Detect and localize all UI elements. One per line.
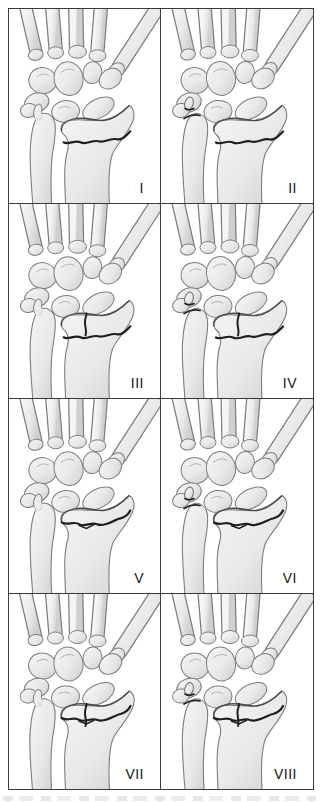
panel-type-4: IV [161,204,313,399]
wrist-anatomy-illustration [161,204,313,398]
panel-type-1: I [9,9,161,204]
wrist-anatomy-illustration [9,204,160,398]
wrist-illustration-7 [9,594,160,789]
radius-bone [61,691,134,789]
wrist-illustration-5 [9,399,160,593]
ulna-bone [182,113,208,203]
wrist-illustration-1 [9,9,160,203]
panel-type-2: II [161,9,313,204]
ulna-bone [30,308,56,398]
ulna-bone [30,503,56,593]
ulna-bone [30,699,56,789]
ulna-bone [182,503,208,593]
panel-numeral-2: II [288,181,297,195]
radius-bone [61,496,134,593]
figure-grid: I [8,8,314,790]
carpal-bones [171,449,278,514]
wrist-illustration-8 [161,594,313,789]
radius-bone [61,106,134,203]
carpal-bones [171,59,278,124]
radius-bone [213,496,286,594]
wrist-anatomy-illustration [9,9,160,203]
panel-numeral-7: VII [125,767,144,781]
carpal-bones [171,254,278,319]
panel-type-6: VI [161,399,313,594]
cropped-caption-remnant [3,796,316,801]
wrist-illustration-6 [161,399,313,593]
ulna-bone [182,308,208,398]
panel-type-8: VIII [161,594,313,789]
wrist-anatomy-illustration [161,399,313,593]
panel-numeral-5: V [134,571,144,585]
wrist-anatomy-illustration [9,399,160,593]
ulna-bone [182,699,208,789]
panel-numeral-6: VI [283,571,297,585]
panel-numeral-3: III [131,376,144,390]
wrist-anatomy-illustration [9,594,160,789]
radius-bone [61,301,134,398]
wrist-illustration-4 [161,204,313,398]
carpal-bones [171,645,278,710]
panel-numeral-4: IV [283,376,297,390]
wrist-anatomy-illustration [161,9,313,203]
panel-type-5: V [9,399,161,594]
wrist-anatomy-illustration [161,594,313,789]
radius-bone [213,301,286,399]
panel-numeral-1: I [140,181,144,195]
panel-numeral-8: VIII [274,767,297,781]
radius-bone [213,106,286,204]
wrist-illustration-2 [161,9,313,203]
panel-type-3: III [9,204,161,399]
ulna-bone [30,113,56,203]
panel-type-7: VII [9,594,161,789]
wrist-illustration-3 [9,204,160,398]
